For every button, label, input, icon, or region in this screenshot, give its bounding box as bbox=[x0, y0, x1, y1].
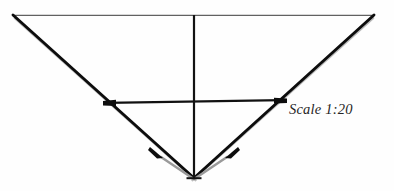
technical-drawing bbox=[0, 0, 394, 191]
crossbar-right-arrowhead bbox=[274, 98, 287, 104]
paper-background bbox=[0, 0, 394, 191]
drawing-canvas: Scale 1:20 bbox=[0, 0, 394, 191]
scale-annotation-label: Scale 1:20 bbox=[289, 102, 353, 117]
